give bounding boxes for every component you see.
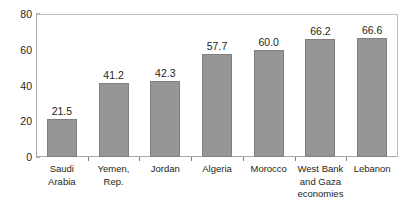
y-axis-tick-label: 20 [6,116,32,127]
bar-slot: 42.3 [150,14,180,157]
bar-slot: 21.5 [47,14,77,157]
y-axis-tick-label: 0 [6,152,32,163]
x-axis-tick-mark [139,157,140,161]
bar-value-label: 66.2 [310,26,330,37]
bar[interactable] [150,81,180,157]
x-axis-tick-mark [191,157,192,161]
x-axis-category-label-line: Lebanon [342,163,402,176]
bar-value-label: 60.0 [258,37,278,48]
bar[interactable] [47,119,77,157]
bar-value-label: 66.6 [362,25,382,36]
bars-layer: 21.541.242.357.760.066.266.6 [36,14,398,157]
x-axis-category-label-line: economies [291,188,351,201]
x-axis-tick-marks [36,157,398,162]
y-axis-tick-label: 80 [6,9,32,20]
y-axis-tick-labels: 020406080 [0,0,32,218]
bar-slot: 57.7 [202,14,232,157]
x-axis-category-labels: SaudiArabiaYemen,Rep.JordanAlgeriaMorocc… [36,163,398,215]
x-axis-tick-mark [346,157,347,161]
bar-value-label: 41.2 [103,70,123,81]
bar-slot: 60.0 [254,14,284,157]
bar-slot: 66.2 [305,14,335,157]
bar-value-label: 21.5 [52,106,72,117]
x-axis-category-label: Lebanon [342,163,402,176]
bar[interactable] [254,50,284,157]
y-axis-tick-label: 40 [6,80,32,91]
bar[interactable] [202,54,232,157]
bar-slot: 41.2 [99,14,129,157]
bar-slot: 66.6 [357,14,387,157]
bar-value-label: 42.3 [155,68,175,79]
bar[interactable] [357,38,387,157]
y-axis-tick-label: 60 [6,45,32,56]
bar-value-label: 57.7 [207,41,227,52]
bar[interactable] [305,39,335,157]
x-axis-category-label-line: Rep. [84,176,144,189]
bar-chart-figure: 020406080 21.541.242.357.760.066.266.6 S… [0,0,410,218]
x-axis-tick-mark [88,157,89,161]
bar[interactable] [99,83,129,157]
x-axis-category-label-line: and Gaza [291,176,351,189]
x-axis-tick-mark [295,157,296,161]
x-axis-tick-mark [243,157,244,161]
